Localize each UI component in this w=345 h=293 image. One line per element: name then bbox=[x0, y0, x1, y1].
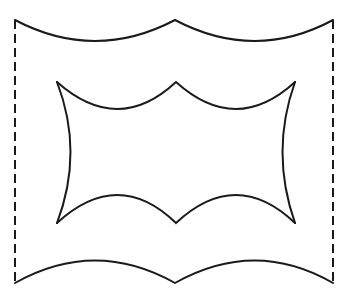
inner-bottom-edge bbox=[57, 195, 295, 223]
diagram-canvas bbox=[0, 0, 345, 293]
inner-top-edge bbox=[57, 82, 295, 109]
diagram-svg bbox=[0, 0, 345, 293]
inner-right-edge bbox=[283, 82, 296, 223]
outer-bottom-edge bbox=[15, 261, 333, 284]
inner-left-edge bbox=[57, 82, 71, 223]
inner-shape bbox=[57, 82, 295, 223]
outer-top-edge bbox=[15, 20, 333, 41]
outer-shape bbox=[15, 20, 333, 283]
